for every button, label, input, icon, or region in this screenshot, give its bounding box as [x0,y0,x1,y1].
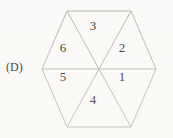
sector-label-5: 5 [56,70,70,83]
sector-label-1: 1 [115,70,129,83]
hexagon-figure: (D) 3 2 1 4 5 6 [0,0,173,138]
sector-label-2: 2 [115,41,129,54]
sector-label-6: 6 [56,41,70,54]
sector-label-3: 3 [86,19,100,32]
sector-label-4: 4 [86,93,100,106]
